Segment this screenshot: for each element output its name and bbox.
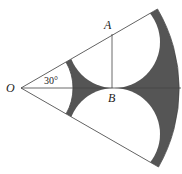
upper-circle bbox=[68, 0, 160, 88]
geometry-diagram: O A B 30° bbox=[0, 0, 182, 174]
angle-label: 30° bbox=[44, 75, 58, 86]
label-O: O bbox=[6, 81, 15, 95]
label-B: B bbox=[108, 91, 116, 105]
shaded-regions bbox=[0, 0, 179, 174]
label-A: A bbox=[103, 18, 112, 32]
